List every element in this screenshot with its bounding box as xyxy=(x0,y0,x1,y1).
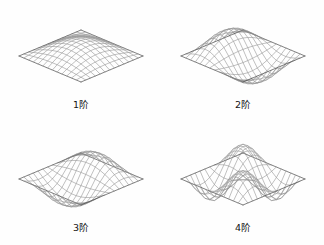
mesh-gridline-u xyxy=(33,36,95,62)
mesh-gridline-v xyxy=(219,155,281,197)
mesh-gridline-u xyxy=(57,43,119,72)
mesh-gridline-v xyxy=(29,52,91,78)
mesh-gridline-v xyxy=(205,34,267,84)
mesh-gridline-u xyxy=(71,171,133,204)
mesh-gridline-u xyxy=(181,30,243,56)
mode-panel-label-2: 2阶 xyxy=(235,99,251,110)
surface-plot-3 xyxy=(0,123,162,223)
mesh-gridline-v xyxy=(238,32,300,58)
mesh-gridline-u xyxy=(29,153,91,186)
mesh-gridline-v xyxy=(67,36,129,62)
mode-panel-2: 2阶 xyxy=(162,0,324,123)
surface-mesh-svg-2 xyxy=(162,0,324,100)
mode-panel-1: 1阶 xyxy=(0,0,162,123)
mesh-gridline-u xyxy=(81,179,143,205)
mesh-gridline-v xyxy=(43,43,105,72)
mesh-gridline-u xyxy=(81,56,143,82)
mode-shape-figure: 1阶 2阶 3阶 4阶 xyxy=(0,0,324,245)
mesh-gridline-v xyxy=(219,28,281,78)
mode-panel-label-3: 3阶 xyxy=(73,222,89,233)
mesh-gridline-u xyxy=(43,151,105,201)
mode-panel-label-1: 1阶 xyxy=(73,99,89,110)
surface-plot-2 xyxy=(162,0,324,100)
mode-panel-3: 3阶 xyxy=(0,123,162,245)
surface-mesh-svg-1 xyxy=(0,0,162,100)
surface-mesh-svg-3 xyxy=(0,123,162,223)
mesh-gridline-u xyxy=(71,52,133,78)
mesh-gridline-v xyxy=(186,54,248,80)
mesh-gridline-v xyxy=(191,49,253,82)
mesh-gridline-u xyxy=(57,157,119,207)
surface-plot-1 xyxy=(0,0,162,100)
mesh-gridline-u xyxy=(19,30,81,56)
mesh-gridline-u xyxy=(243,179,305,205)
mesh-gridline-v xyxy=(233,31,295,64)
mesh-gridline-u xyxy=(24,154,86,180)
mesh-gridline-u xyxy=(76,176,138,202)
surface-plot-4 xyxy=(162,123,324,223)
surface-mesh-svg-4 xyxy=(162,123,324,223)
mesh-gridline-u xyxy=(205,155,267,197)
mode-panel-label-4: 4阶 xyxy=(235,222,251,233)
mode-panel-4: 4阶 xyxy=(162,123,324,245)
mesh-gridline-u xyxy=(243,56,305,82)
mesh-gridline-u xyxy=(19,153,81,179)
